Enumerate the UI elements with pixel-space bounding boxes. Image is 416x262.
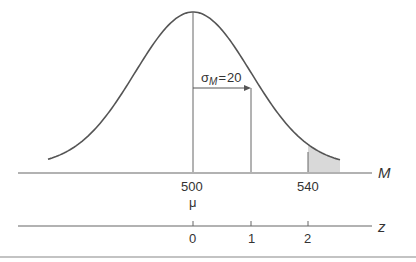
sigma-symbol: σ [201, 70, 209, 85]
sigma-subscript: M [209, 76, 217, 87]
z-tick-label-0: 0 [189, 232, 196, 245]
z-tick-label-1: 1 [248, 232, 255, 245]
m-tick-label-500: 500 [181, 180, 203, 193]
z-tick-label-2: 2 [304, 232, 311, 245]
normal-curve [48, 12, 340, 160]
m-tick-label-540: 540 [297, 180, 319, 193]
z-axis-label: z [378, 219, 386, 234]
normal-curve-figure [0, 0, 416, 262]
mu-label: μ [189, 196, 197, 209]
m-axis-label: M [378, 165, 391, 180]
sigma-label: σM=20 [201, 71, 241, 87]
sigma-equals: = [218, 70, 226, 85]
arrowhead-icon [244, 85, 251, 91]
sigma-value: 20 [227, 70, 241, 85]
